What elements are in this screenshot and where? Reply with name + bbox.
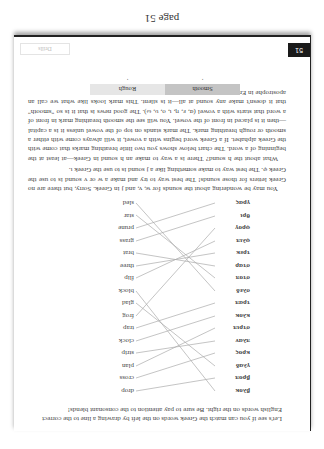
smooth-mark: ᾿	[165, 74, 240, 82]
english-word[interactable]: prune	[74, 222, 134, 235]
english-word[interactable]: sled	[74, 197, 134, 210]
page-number-badge: 51	[288, 43, 310, 57]
english-word[interactable]: three	[74, 260, 134, 273]
greek-word[interactable]: φλιπ	[200, 235, 250, 248]
greek-word[interactable]: κρος	[200, 347, 250, 360]
greek-word[interactable]: κλοκ	[200, 310, 250, 323]
english-word[interactable]: drop	[74, 385, 134, 398]
breathing-marks-table: Smooth Rough ᾿ ῾	[90, 73, 240, 95]
greek-word[interactable]: σλεδ	[200, 285, 250, 298]
matching-exercise: βλοκ βροπ γλαδ κρος πλαν στριπ κλοκ τραπ…	[14, 197, 310, 397]
greek-word[interactable]: γλαδ	[200, 360, 250, 373]
english-word[interactable]: block	[74, 285, 134, 298]
english-word[interactable]: grass	[74, 235, 134, 248]
book-page: Let's see if you can match the Greek wor…	[14, 35, 311, 431]
smooth-header: Smooth	[165, 84, 240, 95]
rough-mark: ῾	[90, 74, 165, 82]
explanation-text: You may be wondering about the sounds fo…	[28, 86, 286, 193]
rough-header: Rough	[90, 84, 165, 95]
greek-word-list: βλοκ βροπ γλαδ κρος πλαν στριπ κλοκ τραπ…	[200, 197, 250, 397]
english-word[interactable]: brat	[74, 247, 134, 260]
english-word[interactable]: star	[74, 210, 134, 223]
english-word[interactable]: strip	[74, 347, 134, 360]
paragraph: You may be wondering about the sounds fo…	[28, 165, 286, 193]
english-word[interactable]: clock	[74, 335, 134, 348]
english-word[interactable]: plan	[74, 360, 134, 373]
greek-word[interactable]: θρι	[200, 210, 250, 223]
greek-word[interactable]: γρας	[200, 197, 250, 210]
greek-word[interactable]: πλαν	[200, 335, 250, 348]
english-word[interactable]: frog	[74, 310, 134, 323]
instructions-text: Let's see if you can match the Greek wor…	[32, 405, 282, 423]
paragraph: What about the h sound? There is a way t…	[28, 88, 286, 163]
greek-word[interactable]: βλοκ	[200, 385, 250, 398]
greek-word[interactable]: στριπ	[200, 322, 250, 335]
page-caption: page 51	[0, 13, 324, 25]
english-word-list: drop cross plan strip clock trap frog gl…	[74, 197, 134, 397]
rotated-page-view: Let's see if you can match the Greek wor…	[0, 0, 324, 449]
matching-lines	[14, 197, 310, 397]
greek-word[interactable]: σταρ	[200, 260, 250, 273]
english-word[interactable]: cross	[74, 372, 134, 385]
greek-word[interactable]: τρεκ	[200, 247, 250, 260]
greek-word[interactable]: στοπ	[200, 272, 250, 285]
section-label: Drills	[20, 43, 70, 55]
english-word[interactable]: flip	[74, 272, 134, 285]
english-word[interactable]: trap	[74, 322, 134, 335]
greek-word[interactable]: τραπ	[200, 297, 250, 310]
greek-word[interactable]: φρογ	[200, 222, 250, 235]
greek-word[interactable]: βροπ	[200, 372, 250, 385]
english-word[interactable]: glad	[74, 297, 134, 310]
